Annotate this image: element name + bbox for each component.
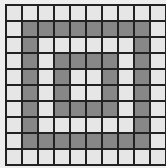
filled-cell (71, 134, 87, 150)
filled-cell (135, 70, 151, 86)
empty-cell (151, 22, 166, 38)
empty-cell (87, 38, 103, 54)
empty-cell (39, 70, 55, 86)
empty-cell (55, 118, 71, 134)
filled-cell (71, 22, 87, 38)
empty-cell (119, 102, 135, 118)
empty-cell (135, 150, 151, 166)
filled-cell (55, 86, 71, 102)
empty-cell (7, 38, 23, 54)
filled-cell (87, 22, 103, 38)
filled-cell (23, 86, 39, 102)
empty-cell (55, 150, 71, 166)
empty-cell (71, 118, 87, 134)
filled-cell (135, 54, 151, 70)
empty-cell (119, 70, 135, 86)
empty-cell (39, 150, 55, 166)
filled-cell (71, 102, 87, 118)
empty-cell (103, 118, 119, 134)
empty-cell (71, 38, 87, 54)
empty-cell (151, 102, 166, 118)
empty-cell (7, 118, 23, 134)
filled-cell (39, 22, 55, 38)
empty-cell (87, 86, 103, 102)
filled-cell (87, 102, 103, 118)
filled-cell (23, 70, 39, 86)
filled-cell (103, 22, 119, 38)
empty-cell (7, 70, 23, 86)
filled-cell (119, 22, 135, 38)
filled-cell (71, 54, 87, 70)
empty-cell (103, 150, 119, 166)
empty-cell (7, 102, 23, 118)
empty-cell (151, 6, 166, 22)
filled-cell (55, 102, 71, 118)
filled-cell (103, 86, 119, 102)
empty-cell (151, 38, 166, 54)
empty-cell (71, 150, 87, 166)
filled-cell (103, 102, 119, 118)
filled-cell (103, 134, 119, 150)
filled-cell (87, 54, 103, 70)
filled-cell (23, 22, 39, 38)
empty-cell (119, 54, 135, 70)
square-pattern-grid (5, 4, 166, 166)
filled-cell (135, 38, 151, 54)
empty-cell (39, 54, 55, 70)
empty-cell (23, 150, 39, 166)
empty-cell (7, 150, 23, 166)
empty-cell (151, 134, 166, 150)
filled-cell (119, 134, 135, 150)
filled-cell (135, 102, 151, 118)
filled-cell (23, 54, 39, 70)
empty-cell (71, 70, 87, 86)
filled-cell (135, 134, 151, 150)
empty-cell (87, 6, 103, 22)
empty-cell (151, 54, 166, 70)
empty-cell (23, 6, 39, 22)
empty-cell (87, 118, 103, 134)
empty-cell (103, 38, 119, 54)
filled-cell (55, 22, 71, 38)
empty-cell (119, 86, 135, 102)
filled-cell (23, 118, 39, 134)
empty-cell (119, 150, 135, 166)
filled-cell (135, 118, 151, 134)
empty-cell (39, 118, 55, 134)
empty-cell (119, 118, 135, 134)
filled-cell (55, 54, 71, 70)
filled-cell (23, 134, 39, 150)
filled-cell (135, 86, 151, 102)
filled-cell (39, 134, 55, 150)
empty-cell (151, 118, 166, 134)
empty-cell (71, 6, 87, 22)
empty-cell (39, 38, 55, 54)
empty-cell (7, 22, 23, 38)
empty-cell (7, 6, 23, 22)
empty-cell (39, 102, 55, 118)
empty-cell (119, 6, 135, 22)
empty-cell (151, 86, 166, 102)
empty-cell (151, 70, 166, 86)
filled-cell (23, 102, 39, 118)
empty-cell (151, 150, 166, 166)
empty-cell (39, 6, 55, 22)
empty-cell (135, 6, 151, 22)
empty-cell (87, 150, 103, 166)
empty-cell (55, 38, 71, 54)
filled-cell (103, 70, 119, 86)
filled-cell (87, 134, 103, 150)
empty-cell (7, 54, 23, 70)
filled-cell (55, 134, 71, 150)
empty-cell (7, 86, 23, 102)
empty-cell (119, 38, 135, 54)
empty-cell (7, 134, 23, 150)
filled-cell (55, 70, 71, 86)
empty-cell (103, 6, 119, 22)
filled-cell (135, 22, 151, 38)
empty-cell (71, 86, 87, 102)
empty-cell (39, 86, 55, 102)
empty-cell (87, 70, 103, 86)
filled-cell (23, 38, 39, 54)
empty-cell (55, 6, 71, 22)
